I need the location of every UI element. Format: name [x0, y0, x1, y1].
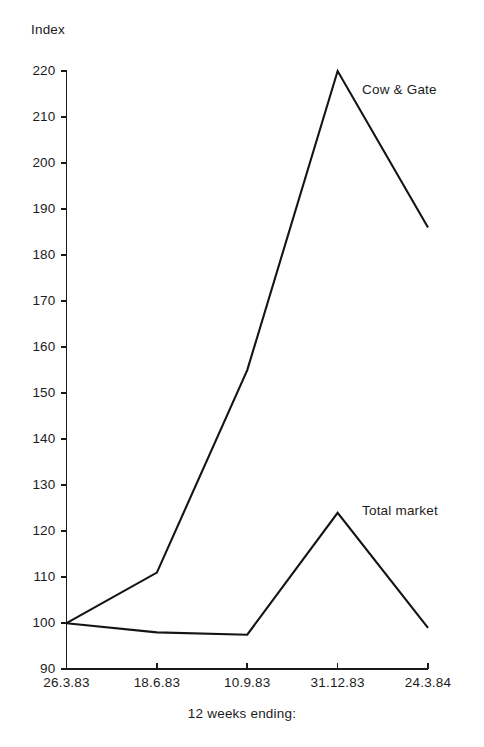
y-tick-label: 150: [20, 385, 56, 400]
y-tick-label: 100: [20, 615, 56, 630]
y-tick-label: 180: [20, 247, 56, 262]
series-label-total-market: Total market: [362, 503, 438, 518]
plot-area: [0, 0, 484, 747]
y-tick-label: 90: [20, 661, 56, 676]
y-tick-label: 220: [20, 63, 56, 78]
data-series-group: [67, 71, 429, 635]
series-label-cow-and-gate: Cow & Gate: [362, 82, 437, 97]
x-axis-title: 12 weeks ending:: [0, 706, 484, 721]
y-tick-marks: [61, 71, 67, 669]
line-chart: Index 9010011012013014015016017018019020…: [0, 0, 484, 747]
x-tick-label: 10.9.83: [224, 675, 270, 690]
y-tick-label: 130: [20, 477, 56, 492]
x-tick-label: 26.3.83: [43, 675, 89, 690]
y-tick-label: 210: [20, 109, 56, 124]
x-tick-label: 24.3.84: [405, 675, 451, 690]
y-tick-label: 110: [20, 569, 56, 584]
series-line-cow-gate: [67, 71, 429, 623]
x-tick-marks: [67, 663, 429, 669]
x-tick-label: 31.12.83: [311, 675, 365, 690]
series-line-total-market: [67, 513, 429, 635]
y-tick-label: 120: [20, 523, 56, 538]
y-tick-label: 200: [20, 155, 56, 170]
x-tick-label: 18.6.83: [134, 675, 180, 690]
y-tick-label: 170: [20, 293, 56, 308]
y-tick-label: 140: [20, 431, 56, 446]
y-tick-label: 190: [20, 201, 56, 216]
y-tick-label: 160: [20, 339, 56, 354]
